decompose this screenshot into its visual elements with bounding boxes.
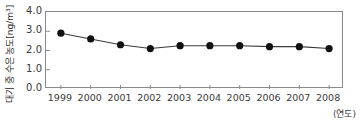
mercury-concentration-line-chart: 대기 중 수은 농도[ng/m³] 4.0 3.0 2.0 1.0 0.0 19… [0, 0, 362, 128]
data-point-marker [117, 41, 124, 48]
plot-area [45, 11, 343, 88]
series-line [61, 33, 329, 48]
data-point-marker [206, 42, 213, 49]
y-axis-tick-label: 2.0 [16, 45, 42, 55]
data-point-marker [147, 45, 154, 52]
x-axis-tick-label-group: 1999200020012002200320042005200620072008 [45, 92, 343, 106]
y-axis-tick-label: 4.0 [16, 6, 42, 16]
data-point-marker [57, 30, 64, 37]
x-axis-tick-marks [61, 85, 329, 89]
y-axis-tick-label: 3.0 [16, 25, 42, 35]
data-point-marker [177, 42, 184, 49]
y-axis-tick-label: 1.0 [16, 64, 42, 74]
plot-svg [46, 12, 344, 89]
y-axis-title: 대기 중 수은 농도[ng/m³] [3, 2, 17, 106]
y-axis-tick-marks [46, 31, 50, 70]
x-axis-tick-label: 2008 [311, 92, 345, 104]
data-point-marker [326, 45, 333, 52]
data-point-marker [87, 35, 94, 42]
data-point-marker [296, 43, 303, 50]
data-point-marker [266, 43, 273, 50]
x-axis-unit-label: (연도) [333, 108, 356, 120]
y-axis-tick-label: 0.0 [16, 83, 42, 93]
y-axis-tick-label-group: 4.0 3.0 2.0 1.0 0.0 [16, 0, 42, 128]
data-point-marker [236, 42, 243, 49]
